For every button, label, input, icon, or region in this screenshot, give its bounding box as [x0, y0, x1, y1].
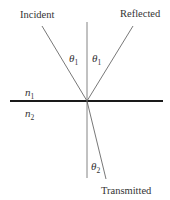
refraction-diagram: Incident Reflected Transmitted θ1 θ1 θ2 … [0, 0, 170, 200]
incident-ray [42, 26, 87, 101]
incident-label: Incident [20, 9, 54, 20]
transmitted-label: Transmitted [101, 185, 152, 196]
reflected-label: Reflected [120, 8, 161, 19]
transmitted-angle-label: θ2 [91, 160, 100, 175]
medium-2-label: n2 [25, 107, 35, 122]
medium-1-label: n1 [25, 86, 35, 101]
incident-angle-label: θ1 [69, 52, 78, 67]
reflected-angle-label: θ1 [92, 52, 101, 67]
